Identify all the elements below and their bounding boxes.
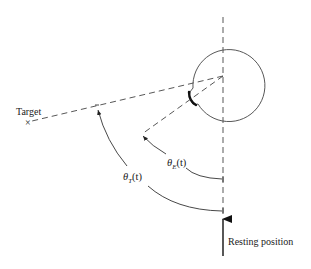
cornea-mark xyxy=(189,92,196,105)
eyeball xyxy=(189,50,265,122)
theta-t-label: θT(t) xyxy=(123,171,142,185)
target-marker: × xyxy=(25,117,31,128)
resting-label: Resting position xyxy=(228,236,293,247)
theta-t-arc xyxy=(98,110,222,211)
eye-tracking-diagram: × Target θE(t) θT(t) Resting position xyxy=(0,0,311,269)
target-label: Target xyxy=(16,106,41,117)
theta-e-label: θE(t) xyxy=(167,157,187,171)
gaze-line xyxy=(142,76,223,134)
target-line xyxy=(32,76,223,121)
